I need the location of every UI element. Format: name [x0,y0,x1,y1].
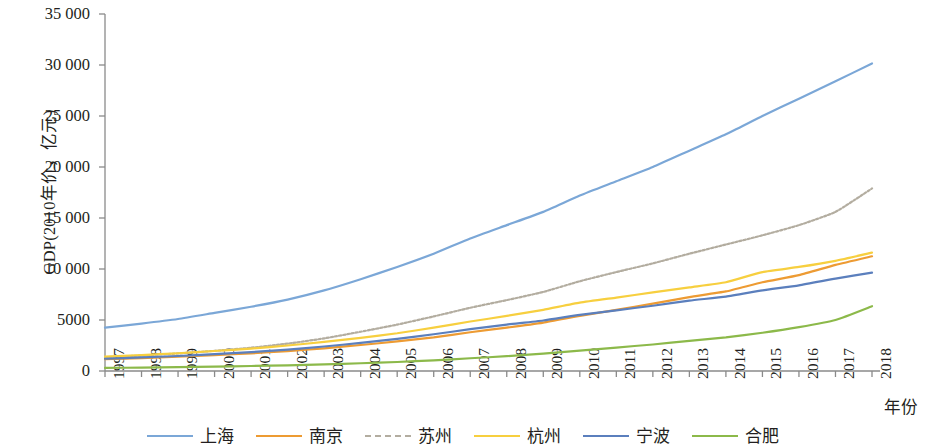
legend-label: 宁波 [636,428,670,445]
legend-label: 南京 [309,428,343,445]
legend-item-杭州[interactable]: 杭州 [474,428,561,445]
legend-label: 苏州 [418,428,452,445]
legend-item-南京[interactable]: 南京 [256,428,343,445]
legend-item-上海[interactable]: 上海 [147,428,234,445]
legend-item-合肥[interactable]: 合肥 [692,428,779,445]
legend-swatch-icon [583,435,629,437]
legend-label: 杭州 [527,428,561,445]
legend-item-宁波[interactable]: 宁波 [583,428,670,445]
legend-swatch-icon [474,435,520,437]
legend-swatch-icon [147,435,193,437]
legend-swatch-icon [256,435,302,437]
legend-item-苏州[interactable]: 苏州 [365,428,452,445]
legend-swatch-icon [365,435,411,437]
series-line-南京 [105,256,872,359]
series-line-宁波 [105,273,872,359]
legend-label: 合肥 [745,428,779,445]
plot-area [0,0,925,448]
legend-swatch-icon [692,435,738,437]
series-line-上海 [105,63,872,327]
chart-legend: 上海南京苏州杭州宁波合肥 [0,424,925,448]
legend-label: 上海 [200,428,234,445]
series-line-合肥 [105,306,872,368]
gdp-line-chart-figure: GDP(2010年价，亿元) 0500010 00015 00020 00025… [0,0,925,448]
